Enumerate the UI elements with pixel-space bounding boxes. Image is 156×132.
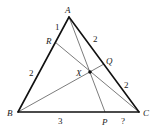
- triangle-diagram: A B C R Q X P 1 2 2 2 3 ?: [0, 0, 156, 132]
- length-AR: 1: [55, 22, 60, 32]
- length-PC: ?: [121, 116, 125, 126]
- length-RB: 2: [29, 68, 34, 78]
- side-AC: [69, 17, 139, 112]
- cevian-CR: [55, 42, 139, 112]
- label-B: B: [7, 108, 13, 118]
- cevian-AP: [69, 17, 105, 112]
- point-X-dot: [88, 70, 92, 74]
- label-R: R: [45, 36, 52, 46]
- label-A: A: [64, 5, 71, 15]
- length-AQ: 2: [93, 34, 98, 44]
- label-Q: Q: [106, 56, 113, 66]
- label-C: C: [143, 108, 150, 118]
- label-P: P: [101, 117, 108, 127]
- length-BP: 3: [58, 116, 63, 126]
- label-X: X: [75, 68, 82, 78]
- length-QC: 2: [124, 80, 129, 90]
